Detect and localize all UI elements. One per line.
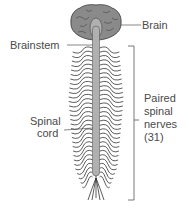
spinal-nerve [100, 172, 112, 183]
spinal-nerve [69, 86, 92, 94]
spinal-nerve [100, 81, 123, 89]
cauda-equina-nerve [92, 178, 96, 200]
spinal-nerve [71, 64, 92, 71]
spinal-cord-label-line1: Spinal [30, 115, 61, 127]
brainstem-label: Brainstem [10, 39, 60, 51]
cauda-equina-nerve [96, 178, 100, 200]
nerves-label-line4: (31) [144, 131, 164, 143]
spinal-nerve [100, 77, 123, 84]
spinal-nerve [100, 68, 122, 75]
spinal-nerve [100, 60, 121, 67]
spinal-nerve [70, 73, 92, 80]
spinal-nerve [100, 90, 124, 98]
spinal-nerve [81, 172, 93, 183]
spinal-nerve [72, 51, 92, 57]
cauda-equina-nerve [88, 178, 96, 200]
spinal-nerve [72, 56, 93, 63]
spinal-nerve [100, 47, 120, 53]
cauda-equina-nerve [96, 178, 104, 200]
spinal-nerve [71, 68, 93, 75]
nerves-label-line2: spinal [144, 105, 173, 117]
spinal-nerve [72, 60, 93, 67]
spinal-nerve [73, 47, 93, 53]
nerves-bracket [128, 46, 139, 200]
spinal-nerve [100, 51, 120, 57]
brain-label: Brain [142, 19, 168, 31]
spinal-nerve [70, 77, 93, 84]
nerves-label-line3: nerves [144, 118, 177, 130]
spinal-nerve [100, 56, 121, 63]
spinal-nerve [100, 64, 121, 71]
spinal-nerve [100, 73, 122, 80]
spinal-cord-label-line2: cord [37, 127, 58, 139]
spinal-nerve [69, 90, 93, 98]
spinal-cord [93, 26, 100, 176]
nerves-label-line1: Paired [144, 92, 176, 104]
spinal-nerve [70, 81, 93, 89]
spinal-nerve [100, 86, 123, 94]
